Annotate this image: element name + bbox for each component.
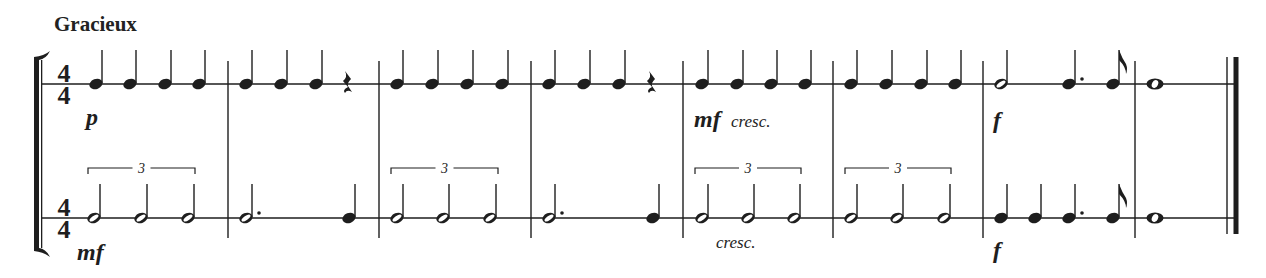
triplet-label: 3: [744, 161, 752, 176]
dynamic-marking: f: [993, 237, 1003, 263]
quarter-rest: [647, 71, 656, 93]
time-signature-denominator: 4: [58, 81, 71, 110]
triplet-bracket-right: [907, 168, 951, 174]
final-barline-thick: [1234, 57, 1239, 234]
rhythm-score: 4444 3333 pmfcresc.fmfcresc.f: [0, 0, 1266, 278]
system-bracket: [34, 51, 50, 257]
augmentation-dot: [257, 211, 261, 215]
dynamic-marking: mf: [77, 239, 106, 265]
triplet-bracket-left: [88, 168, 133, 174]
triplet-bracket: 3: [88, 161, 195, 176]
bracket-thin-line: [41, 60, 42, 248]
time-signatures: 4444: [58, 59, 71, 244]
dynamic-marking: mf: [694, 106, 723, 132]
whole-note: [1147, 212, 1164, 223]
dynamics: pmfcresc.fmfcresc.f: [77, 104, 1003, 265]
triplet-bracket-left: [391, 168, 436, 174]
time-signature-denominator: 4: [58, 215, 71, 244]
eighth-flag: [1119, 184, 1127, 208]
tuplet-brackets: 3333: [88, 161, 951, 176]
bracket-top-hook: [34, 51, 50, 60]
bracket-bottom-hook: [34, 248, 50, 257]
triplet-bracket: 3: [845, 161, 951, 176]
augmentation-dot: [1080, 77, 1084, 81]
notes: [86, 50, 1164, 225]
dynamic-marking: f: [993, 107, 1003, 133]
whole-note: [1147, 78, 1164, 89]
staff-lines: [42, 84, 1236, 218]
triplet-label: 3: [137, 161, 145, 176]
triplet-bracket-right: [757, 168, 801, 174]
augmentation-dot: [1080, 211, 1084, 215]
triplet-bracket-right: [151, 168, 196, 174]
triplet-bracket-right: [454, 168, 499, 174]
quarter-rest: [343, 71, 352, 93]
triplet-bracket-left: [695, 168, 739, 174]
augmentation-dot: [560, 211, 564, 215]
eighth-flag: [1119, 50, 1127, 74]
triplet-label: 3: [894, 161, 902, 176]
triplet-bracket: 3: [695, 161, 801, 176]
triplet-label: 3: [440, 161, 448, 176]
triplet-bracket-left: [845, 168, 889, 174]
expression-marking: cresc.: [731, 112, 771, 131]
dynamic-marking: p: [84, 104, 98, 130]
triplet-bracket: 3: [391, 161, 498, 176]
bracket-bar: [34, 60, 39, 248]
expression-marking: cresc.: [716, 233, 756, 252]
